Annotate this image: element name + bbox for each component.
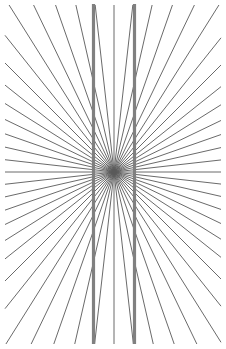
hering-illusion-figure: Hering illusion bbox=[0, 0, 226, 349]
illusion-canvas bbox=[0, 0, 226, 349]
